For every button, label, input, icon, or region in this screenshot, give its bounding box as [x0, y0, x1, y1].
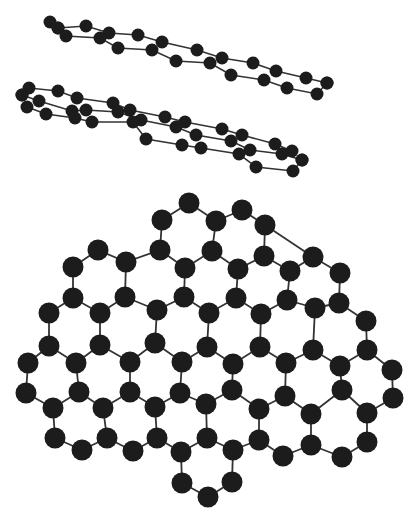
carbon-atom	[176, 139, 189, 152]
carbon-atom	[124, 104, 137, 117]
carbon-atom	[94, 32, 107, 45]
lattice-atoms	[16, 193, 404, 508]
carbon-atom	[33, 95, 46, 108]
carbon-atom	[329, 293, 350, 314]
carbon-atom	[159, 111, 172, 124]
carbon-atom	[303, 247, 324, 268]
carbon-atom	[45, 428, 66, 449]
carbon-atom	[171, 442, 192, 463]
carbon-atom	[321, 77, 334, 90]
carbon-atom	[357, 340, 378, 361]
carbon-atom	[40, 108, 53, 121]
carbon-atom	[216, 52, 229, 65]
carbon-atom	[147, 428, 168, 449]
carbon-atom	[80, 104, 93, 117]
carbon-atom	[146, 44, 159, 57]
carbon-atom	[287, 165, 300, 178]
carbon-atom	[120, 382, 141, 403]
carbon-atom	[225, 135, 238, 148]
carbon-atom	[223, 354, 244, 375]
carbon-atom	[196, 394, 217, 415]
carbon-atom	[330, 263, 351, 284]
carbon-atom	[254, 246, 275, 267]
carbon-atom	[225, 69, 238, 82]
carbon-atom	[16, 89, 29, 102]
carbon-atom	[140, 133, 153, 146]
carbon-atom	[198, 487, 219, 508]
carbon-atom	[123, 441, 144, 462]
carbon-atom	[250, 337, 271, 358]
carbon-atom	[277, 290, 298, 311]
carbon-atom	[71, 92, 84, 105]
carbon-atom	[197, 428, 218, 449]
carbon-atom	[303, 340, 324, 361]
carbon-atom	[301, 404, 322, 425]
carbon-atom	[276, 353, 297, 374]
carbon-atom	[145, 397, 166, 418]
carbon-atom	[206, 211, 227, 232]
carbon-atom	[247, 57, 260, 70]
carbon-atom	[223, 440, 244, 461]
carbon-atom	[357, 432, 378, 453]
carbon-atom	[60, 30, 73, 43]
carbon-atom	[39, 303, 60, 324]
sheet-bond-chain	[22, 95, 302, 160]
carbon-atom	[190, 129, 203, 142]
carbon-atom	[174, 287, 195, 308]
carbon-atom	[258, 74, 271, 87]
carbon-atom	[199, 303, 220, 324]
carbon-atom	[39, 336, 60, 357]
carbon-atom	[179, 193, 200, 214]
carbon-atom	[255, 215, 276, 236]
sheet-bond-chain	[50, 22, 327, 83]
carbon-atom	[69, 112, 82, 125]
carbon-atom	[276, 148, 289, 161]
carbon-atom	[204, 57, 217, 70]
carbon-atom	[147, 300, 168, 321]
carbon-atom	[356, 311, 377, 332]
carbon-atom	[69, 382, 90, 403]
carbon-atom	[222, 380, 243, 401]
carbon-atom	[112, 106, 125, 119]
carbon-atom	[72, 440, 93, 461]
carbon-atom	[63, 257, 84, 278]
carbon-atom	[132, 29, 145, 42]
carbon-atom	[249, 430, 270, 451]
carbon-atom	[236, 129, 249, 142]
carbon-atom	[273, 446, 294, 467]
carbon-atom	[43, 398, 64, 419]
carbon-atom	[175, 258, 196, 279]
carbon-atom	[383, 388, 404, 409]
carbon-atom	[172, 473, 193, 494]
carbon-atom	[152, 210, 173, 231]
carbon-atom	[170, 121, 183, 134]
carbon-atom	[382, 360, 403, 381]
carbon-atom	[202, 241, 223, 262]
carbon-atom	[93, 398, 114, 419]
carbon-atom	[120, 352, 141, 373]
carbon-atom	[63, 288, 84, 309]
carbon-atom	[90, 335, 111, 356]
carbon-atom	[116, 252, 137, 273]
sheet-bottom	[16, 82, 309, 178]
carbon-atom	[332, 380, 353, 401]
carbon-atom	[216, 123, 229, 136]
carbon-atom	[197, 337, 218, 358]
carbon-atom	[250, 161, 263, 174]
carbon-atom	[275, 386, 296, 407]
carbon-atom	[112, 42, 125, 55]
carbon-atom	[21, 101, 34, 114]
carbon-atom	[127, 116, 140, 129]
carbon-atom	[305, 298, 326, 319]
graphene-structure-diagram	[0, 0, 419, 520]
carbon-atom	[332, 447, 353, 468]
carbon-atom	[280, 261, 301, 282]
carbon-atom	[170, 55, 183, 68]
carbon-atom	[330, 356, 351, 377]
carbon-atom	[228, 259, 249, 280]
carbon-atom	[18, 353, 39, 374]
carbon-atom	[172, 352, 193, 373]
carbon-atom	[251, 304, 272, 325]
carbon-atom	[311, 88, 324, 101]
carbon-atom	[66, 353, 87, 374]
